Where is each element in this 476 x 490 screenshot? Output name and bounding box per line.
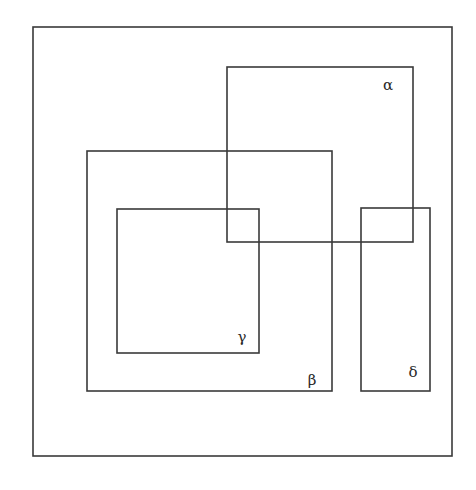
set-beta: β <box>87 151 332 391</box>
set-delta-label: δ <box>408 363 417 381</box>
set-beta-label: β <box>308 371 317 389</box>
set-gamma: γ <box>117 209 259 353</box>
set-delta-box <box>361 208 430 391</box>
venn-diagram: α β γ δ <box>0 0 476 490</box>
set-alpha-label: α <box>383 76 393 94</box>
set-alpha: α <box>227 67 413 242</box>
set-beta-box <box>87 151 332 391</box>
set-delta: δ <box>361 208 430 391</box>
set-gamma-label: γ <box>238 328 247 346</box>
